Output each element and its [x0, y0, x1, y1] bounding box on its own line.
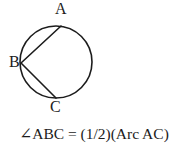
inscribed-angle-formula: ∠ABC = (1/2)(Arc AC) — [0, 124, 188, 144]
point-label-b: B — [9, 54, 20, 70]
circle-outline — [20, 26, 92, 98]
point-label-a: A — [55, 1, 67, 17]
point-label-c: C — [50, 99, 61, 115]
chord-ba-line — [21, 26, 61, 63]
geometry-figure: A B C ∠ABC = (1/2)(Arc AC) — [0, 0, 188, 153]
